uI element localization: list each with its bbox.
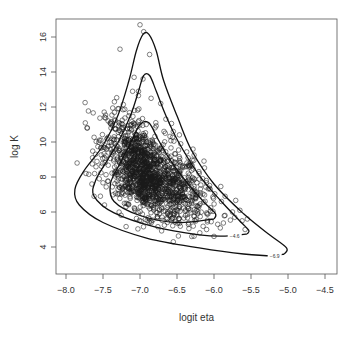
data-point (162, 140, 167, 145)
data-point (118, 196, 123, 201)
x-tick-label: −7.5 (94, 285, 112, 295)
data-points (75, 23, 250, 245)
data-point (112, 100, 117, 105)
y-tick-label: 14 (38, 67, 48, 77)
data-point (202, 193, 207, 198)
data-point (114, 95, 119, 100)
data-point (191, 224, 196, 229)
data-point (135, 108, 140, 113)
data-point (104, 172, 109, 177)
data-point (101, 181, 106, 186)
data-point (110, 113, 115, 118)
data-point (137, 118, 142, 123)
y-axis-title: log K (9, 135, 20, 158)
y-tick-label: 4 (38, 244, 48, 249)
data-point (198, 214, 203, 219)
data-point (202, 159, 207, 164)
data-point (91, 111, 96, 116)
data-point (136, 227, 141, 232)
data-point (138, 205, 143, 210)
data-point (149, 210, 154, 215)
data-point (92, 171, 97, 176)
data-point (98, 194, 103, 199)
data-point (83, 121, 88, 126)
x-tick-label: −6.0 (205, 285, 223, 295)
data-point (212, 202, 217, 207)
data-point (154, 120, 159, 125)
data-point (112, 110, 117, 115)
x-tick-label: −5.0 (279, 285, 297, 295)
data-point (140, 116, 145, 121)
data-point (87, 172, 92, 177)
data-point (219, 184, 224, 189)
data-point (176, 234, 181, 239)
data-point (132, 75, 137, 80)
data-point (147, 52, 152, 57)
data-point (75, 161, 80, 166)
data-point (211, 196, 216, 201)
data-point (177, 133, 182, 138)
contour-label: −4.6 (230, 233, 240, 239)
data-point (98, 116, 103, 121)
data-point (228, 218, 233, 223)
data-point (83, 100, 88, 105)
data-point (104, 185, 109, 190)
data-point (124, 224, 129, 229)
data-point (92, 135, 97, 140)
y-tick-label: 12 (38, 102, 48, 112)
x-tick-label: −7.0 (131, 285, 149, 295)
data-point (106, 163, 111, 168)
y-tick-label: 10 (38, 137, 48, 147)
data-point (95, 159, 100, 164)
data-point (138, 23, 143, 28)
data-point (176, 148, 181, 153)
data-point (201, 192, 206, 197)
data-point (188, 211, 193, 216)
data-point (169, 146, 174, 151)
data-point (110, 106, 115, 111)
data-point (233, 198, 238, 203)
contour-label: −6.9 (270, 253, 280, 259)
x-axis: −8.0−7.5−7.0−6.5−6.0−5.5−5.0−4.5 (57, 274, 334, 295)
data-point (141, 225, 146, 230)
y-tick-label: 6 (38, 209, 48, 214)
data-point (182, 216, 187, 221)
data-point (100, 132, 105, 137)
data-point (106, 179, 111, 184)
data-point (85, 126, 90, 131)
data-point (162, 223, 167, 228)
data-point (102, 110, 107, 115)
data-point (84, 171, 89, 176)
data-point (178, 224, 183, 229)
x-tick-label: −5.5 (242, 285, 260, 295)
data-point (187, 226, 192, 231)
data-point (130, 89, 135, 94)
x-tick-label: −4.5 (316, 285, 334, 295)
data-point (204, 227, 209, 232)
x-axis-title: logit eta (179, 312, 214, 323)
scatter-plot: −6.9−4.6 −8.0−7.5−7.0−6.5−6.0−5.5−5.0−4.… (0, 0, 359, 337)
data-point (221, 221, 226, 226)
data-point (86, 109, 91, 114)
data-point (118, 47, 123, 52)
x-tick-label: −8.0 (57, 285, 75, 295)
y-axis: 46810121416 (38, 32, 56, 250)
x-tick-label: −6.5 (168, 285, 186, 295)
data-point (137, 107, 142, 112)
data-point (149, 96, 154, 101)
data-point (215, 222, 220, 227)
data-point (168, 134, 173, 139)
y-tick-label: 8 (38, 174, 48, 179)
y-tick-label: 16 (38, 32, 48, 42)
